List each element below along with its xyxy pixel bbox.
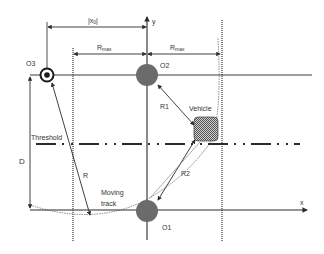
moving-track-arc [30, 38, 219, 215]
d-label: D [19, 157, 25, 166]
x0-label: |x0| [88, 17, 98, 25]
r2-label: R2 [181, 170, 190, 177]
moving-track-label-line2: track [101, 200, 117, 207]
o2-circle [136, 64, 158, 86]
moving-track-label-line1: Moving [101, 189, 124, 197]
r-label: R [83, 172, 88, 179]
rmax-right-label: Rmax [170, 44, 185, 52]
rmax-left-label: Rmax [97, 44, 112, 52]
o1-circle [136, 200, 158, 222]
o1-label: O1 [162, 224, 171, 231]
diagram-canvas: |x0| Rmax Rmax y x D R Threshold R1 R2 V… [0, 0, 324, 254]
threshold-label: Threshold [31, 134, 62, 141]
y-axis-label: y [152, 18, 156, 26]
vehicle-icon [194, 117, 218, 141]
r1-label: R1 [160, 103, 169, 110]
vehicle-label: Vehicle [189, 105, 212, 112]
coordinate-diagram: |x0| Rmax Rmax y x D R Threshold R1 R2 V… [0, 0, 324, 254]
r-radius-line [52, 83, 90, 215]
o3-label: O3 [26, 60, 35, 67]
o3-target-center [44, 72, 50, 78]
o2-label: O2 [160, 62, 169, 69]
x-axis-label: x [300, 199, 304, 206]
r2-secondary-line [150, 142, 200, 198]
